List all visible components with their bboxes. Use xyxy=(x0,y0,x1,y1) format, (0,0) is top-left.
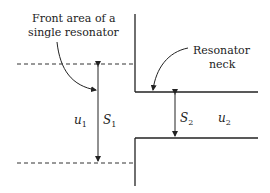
front-area-label-line2: single resonator xyxy=(28,26,120,39)
s1-symbol: S1 xyxy=(103,113,116,129)
s2-symbol: S2 xyxy=(180,111,193,127)
neck-leader-arrow xyxy=(153,48,188,90)
front-area-leader-arrow xyxy=(57,42,96,90)
neck-label-line2: neck xyxy=(209,58,236,71)
u1-symbol: u1 xyxy=(74,113,87,129)
resonator-diagram: Front area of a single resonator Resonat… xyxy=(0,0,270,193)
neck-label-line1: Resonator xyxy=(193,44,251,57)
u2-symbol: u2 xyxy=(218,111,231,127)
front-area-label-line1: Front area of a xyxy=(32,12,116,25)
